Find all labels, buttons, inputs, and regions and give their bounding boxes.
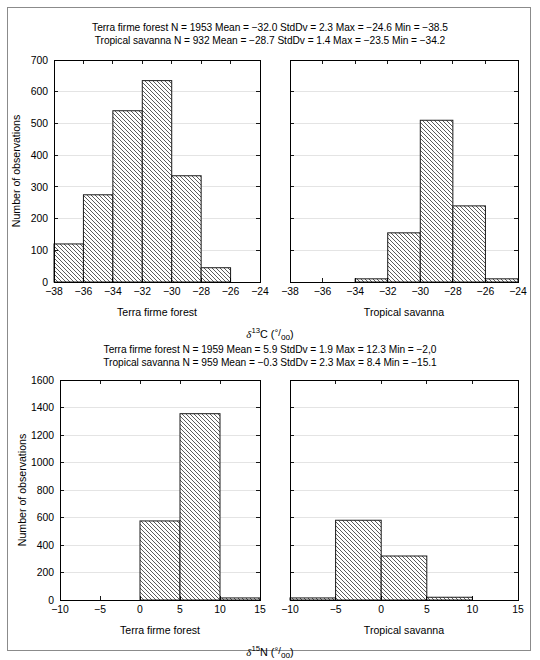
- group-label-n15-terra-firme-forest: Terra firme forest: [60, 624, 260, 636]
- element-symbol: N: [260, 646, 268, 658]
- x-tick-label: −24: [509, 286, 527, 297]
- x-tick-label: 10: [214, 604, 226, 615]
- x-tick-label: −34: [346, 286, 364, 297]
- group-label-c13-tropical-savanna: Tropical savanna: [304, 306, 504, 318]
- figure-frame: Terra firme forest N = 1953 Mean = −32.0…: [7, 7, 531, 651]
- x-tick-label: 0: [137, 604, 143, 615]
- x-tick-label: 15: [254, 604, 266, 615]
- histogram-bar: [180, 414, 220, 600]
- histogram-bar: [388, 233, 421, 282]
- chart-n15-terra-firme-forest: −10−505101502004006008001000120014001600…: [8, 372, 270, 620]
- group-label-c13-terra-firme-forest: Terra firme forest: [57, 306, 257, 318]
- y-tick-label: 300: [31, 182, 49, 193]
- histogram-bar: [453, 206, 486, 282]
- y-tick-label: 1600: [31, 375, 54, 386]
- y-tick-label: 200: [37, 567, 55, 578]
- x-tick-label: −24: [251, 286, 269, 297]
- x-tick-label: −36: [75, 286, 93, 297]
- x-tick-label: 5: [424, 604, 430, 615]
- xaxis-title-delta15n: δ15N (°/oo): [8, 644, 532, 660]
- y-tick-label: 200: [31, 213, 49, 224]
- stats-block-delta15n: Terra firme forest N = 1959 Mean = 5.9 S…: [8, 343, 532, 370]
- chart-c13-terra-firme-forest: −38−36−34−32−30−28−26−240100200300400500…: [8, 52, 270, 302]
- y-tick-label: 600: [37, 512, 55, 523]
- y-tick-label: 800: [37, 485, 55, 496]
- unit-close-paren: ): [290, 646, 294, 658]
- y-tick-label: 600: [31, 86, 49, 97]
- histogram-bar: [83, 195, 112, 282]
- histogram-bar: [54, 244, 83, 282]
- x-tick-label: −5: [94, 604, 106, 615]
- group-label-n15-tropical-savanna: Tropical savanna: [304, 624, 504, 636]
- histogram-bars: [355, 120, 518, 282]
- y-tick-label: 1200: [31, 430, 54, 441]
- x-tick-label: −36: [314, 286, 332, 297]
- stats-block-delta13c: Terra firme forest N = 1953 Mean = −32.0…: [8, 21, 532, 48]
- histogram-bar: [140, 521, 180, 600]
- histogram-bars: [54, 81, 231, 282]
- y-tick-label: 400: [31, 150, 49, 161]
- y-tick-label: 0: [42, 277, 48, 288]
- y-axis-title: Number of observations: [16, 434, 28, 546]
- stats-line-tropical-savanna: Tropical savanna N = 932 Mean = −28.7 St…: [8, 34, 532, 47]
- x-tick-label: −10: [281, 604, 299, 615]
- x-tick-label: −26: [477, 286, 495, 297]
- y-tick-label: 500: [31, 118, 49, 129]
- x-tick-label: −26: [222, 286, 240, 297]
- histogram-bar: [172, 176, 201, 282]
- histogram-bars: [140, 414, 260, 600]
- histogram-bar: [201, 268, 230, 282]
- histogram-bar: [420, 120, 453, 282]
- histogram-bar: [336, 520, 382, 600]
- x-tick-label: −30: [163, 286, 181, 297]
- chart-c13-tropical-savanna: −38−36−34−32−30−28−26−24: [270, 52, 532, 302]
- x-tick-label: 0: [378, 604, 384, 615]
- x-tick-label: 5: [177, 604, 183, 615]
- charts-row-delta13c: −38−36−34−32−30−28−26−240100200300400500…: [8, 52, 532, 302]
- y-tick-label: 1400: [31, 402, 54, 413]
- panel-delta13c: Terra firme forest N = 1953 Mean = −32.0…: [8, 12, 532, 334]
- stats-line-terra-firme: Terra firme forest N = 1959 Mean = 5.9 S…: [8, 343, 532, 356]
- x-tick-label: 15: [512, 604, 524, 615]
- charts-row-delta15n: −10−505101502004006008001000120014001600…: [8, 372, 532, 620]
- x-tick-label: −32: [379, 286, 397, 297]
- x-tick-label: −38: [281, 286, 299, 297]
- histogram-bar: [381, 556, 427, 600]
- y-tick-label: 1000: [31, 457, 54, 468]
- permil-denominator: oo: [281, 651, 290, 660]
- x-tick-label: −5: [330, 604, 342, 615]
- x-tick-label: 10: [467, 604, 479, 615]
- x-tick-label: −28: [192, 286, 210, 297]
- panel-delta15n: Terra firme forest N = 1959 Mean = 5.9 S…: [8, 334, 532, 648]
- x-tick-label: −34: [104, 286, 122, 297]
- x-tick-label: −30: [411, 286, 429, 297]
- histogram-bar: [142, 81, 171, 282]
- x-tick-label: −32: [133, 286, 151, 297]
- y-tick-label: 0: [48, 595, 54, 606]
- y-tick-label: 700: [31, 55, 49, 66]
- stats-line-terra-firme: Terra firme forest N = 1953 Mean = −32.0…: [8, 21, 532, 34]
- histogram-bar: [113, 111, 142, 282]
- chart-n15-tropical-savanna: −10−5051015: [270, 372, 532, 620]
- histogram-bars: [290, 520, 472, 600]
- y-axis-title: Number of observations: [10, 115, 22, 227]
- y-tick-label: 100: [31, 245, 49, 256]
- y-tick-label: 400: [37, 540, 55, 551]
- isotope-mass-number: 15: [251, 644, 260, 653]
- stats-line-tropical-savanna: Tropical savanna N = 959 Mean = −0.3 Std…: [8, 356, 532, 369]
- x-tick-label: −28: [444, 286, 462, 297]
